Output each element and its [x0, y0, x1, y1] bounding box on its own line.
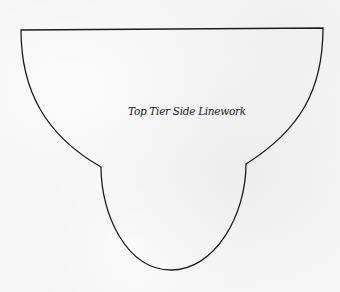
diagram-label: Top Tier Side Linework: [128, 105, 230, 117]
top-tier-side-outline: [0, 0, 340, 292]
outline-path: [21, 28, 323, 270]
